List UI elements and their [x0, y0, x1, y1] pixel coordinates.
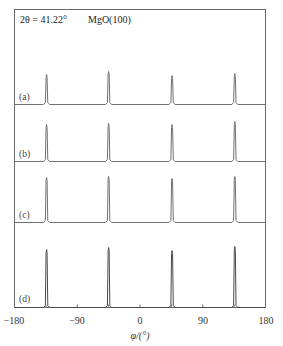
panel-label-b: (b)	[19, 149, 30, 160]
tick-label-neg90: −90	[69, 315, 85, 326]
plot-frame	[15, 10, 266, 308]
tick-label-90: 90	[198, 315, 208, 326]
tick-label-neg180: −180	[4, 315, 25, 326]
panel-label-a: (a)	[19, 92, 30, 103]
tick-label-0: 0	[138, 315, 143, 326]
two-theta-annotation: 2θ = 41.22°	[20, 14, 67, 25]
trace-d	[15, 247, 266, 308]
trace-b	[15, 122, 266, 162]
sample-annotation: MgO(100)	[88, 14, 131, 26]
trace-c	[15, 177, 266, 223]
trace-a	[15, 72, 266, 105]
traces	[15, 72, 266, 308]
panel-label-d: (d)	[19, 294, 30, 305]
phi-scan-chart: 2θ = 41.22° MgO(100) (a) (b) (c) (d) −18…	[0, 0, 283, 346]
panel-label-c: (c)	[19, 210, 30, 221]
tick-label-180: 180	[259, 315, 274, 326]
x-axis-label: φ/(°)	[131, 330, 151, 342]
